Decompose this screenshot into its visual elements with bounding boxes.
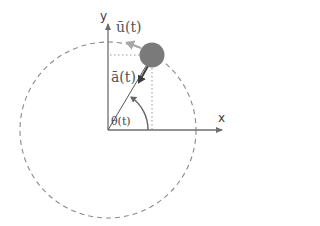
velocity-label: ū(t) [116, 20, 142, 34]
velocity-arrow [128, 43, 141, 48]
acceleration-label: ā(t) [111, 70, 136, 84]
angle-label: θ(t) [111, 116, 131, 127]
x-axis-label: x [218, 112, 225, 124]
angle-arc [131, 97, 148, 130]
particle [140, 43, 165, 68]
y-axis-label: y [100, 10, 107, 22]
acceleration-arrow [139, 66, 148, 82]
